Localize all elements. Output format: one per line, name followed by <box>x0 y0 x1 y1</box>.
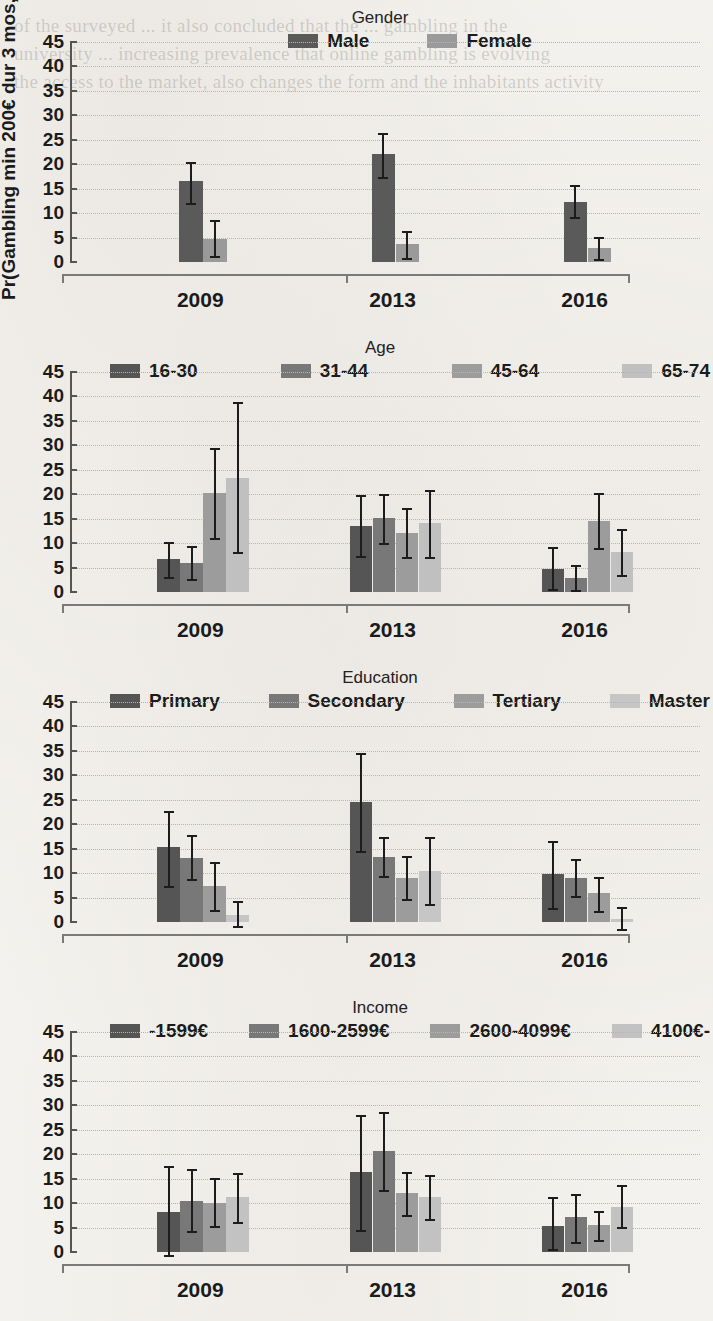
y-axis-tick-label: 40 <box>24 386 64 405</box>
x-axis-label: 2016 <box>561 1278 608 1302</box>
error-bar-cap-lower <box>594 548 604 550</box>
y-axis-tick-label: 0 <box>24 1242 64 1261</box>
gridline <box>72 1032 700 1033</box>
error-bar <box>237 1173 239 1222</box>
gridline <box>72 751 700 752</box>
error-bar <box>214 862 216 910</box>
gridline <box>72 1056 700 1057</box>
error-bar-cap-lower <box>164 577 174 579</box>
chart-panel-education: 200920132016EducationPrimarySecondaryTer… <box>0 660 713 990</box>
y-axis-tick-label: 15 <box>24 1169 64 1188</box>
error-bar-cap-upper <box>425 490 435 492</box>
error-bar <box>621 1185 623 1228</box>
error-bar-cap-lower <box>233 552 243 554</box>
axes-area: 051015202530354045 <box>70 1026 690 1256</box>
y-axis-tick <box>70 1178 77 1180</box>
x-axis-bracket-tick <box>628 604 630 613</box>
error-bar-cap-upper <box>164 1166 174 1168</box>
y-axis-tick <box>70 750 77 752</box>
y-axis-tick-label: 20 <box>24 814 64 833</box>
chart-panel-gender: 200920132016GenderMaleFemale051015202530… <box>0 0 713 330</box>
error-bar-cap-lower <box>210 1226 220 1228</box>
error-bar <box>575 1194 577 1242</box>
error-bar <box>191 835 193 879</box>
x-axis-bracket-tick <box>346 934 348 943</box>
error-bar-cap-lower <box>548 908 558 910</box>
gridline <box>72 91 700 92</box>
error-bar-cap-upper <box>379 494 389 496</box>
y-axis-tick <box>70 1227 77 1229</box>
y-axis-tick-label: 20 <box>24 154 64 173</box>
chart-panel-age: 200920132016Age16-3031-4445-6465-7405101… <box>0 330 713 660</box>
error-bar <box>598 237 600 259</box>
y-axis-tick <box>70 725 77 727</box>
error-bar-cap-upper <box>356 1115 366 1117</box>
y-axis-tick <box>70 1129 77 1131</box>
x-axis-bracket <box>62 1264 630 1274</box>
error-bar-cap-lower <box>210 256 220 258</box>
error-bar <box>237 901 239 926</box>
y-axis-tick <box>70 897 77 899</box>
error-bar <box>575 859 577 896</box>
error-bar-cap-upper <box>402 508 412 510</box>
error-bar <box>406 231 408 258</box>
error-bar <box>598 493 600 548</box>
y-axis-tick <box>70 41 77 43</box>
error-bar-cap-lower <box>425 557 435 559</box>
y-axis-tick-label: 5 <box>24 888 64 907</box>
error-bar-cap-upper <box>548 841 558 843</box>
gridline <box>72 66 700 67</box>
error-bar-cap-lower <box>356 1230 366 1232</box>
gridline <box>72 396 700 397</box>
y-axis-tick <box>70 921 77 923</box>
x-axis-bracket <box>62 274 630 284</box>
error-bar-cap-lower <box>594 911 604 913</box>
plot-area: GenderMaleFemale051015202530354045 <box>70 36 690 266</box>
y-axis-tick-label: 30 <box>24 765 64 784</box>
error-bar-cap-upper <box>425 1175 435 1177</box>
gridline <box>72 775 700 776</box>
x-axis-bracket-tick <box>62 1264 64 1273</box>
error-bar-cap-lower <box>571 1242 581 1244</box>
error-bar <box>621 907 623 929</box>
plot-area: EducationPrimarySecondaryTertiaryMaster0… <box>70 696 690 926</box>
error-bar-cap-lower <box>425 1219 435 1221</box>
y-axis-tick-label: 35 <box>24 411 64 430</box>
error-bar-cap-upper <box>164 542 174 544</box>
x-axis-bracket-tick <box>346 1264 348 1273</box>
error-bar <box>382 133 384 177</box>
gridline <box>72 115 700 116</box>
x-axis-label: 2016 <box>561 288 608 312</box>
error-bar <box>621 529 623 575</box>
error-bar <box>214 220 216 256</box>
error-bar <box>360 495 362 556</box>
error-bar <box>406 508 408 556</box>
gridline <box>72 372 700 373</box>
error-bar <box>429 837 431 904</box>
error-bar <box>429 490 431 556</box>
error-bar <box>168 1166 170 1255</box>
error-bar-cap-lower <box>402 557 412 559</box>
y-axis-tick <box>70 395 77 397</box>
y-axis-tick <box>70 1104 77 1106</box>
y-axis-tick-label: 10 <box>24 203 64 222</box>
y-axis-tick-label: 10 <box>24 533 64 552</box>
gridline <box>72 1081 700 1082</box>
error-bar-cap-lower <box>186 203 196 205</box>
error-bar <box>383 837 385 875</box>
error-bar <box>574 185 576 216</box>
error-bar-cap-lower <box>571 896 581 898</box>
y-axis-tick-label: 5 <box>24 1218 64 1237</box>
y-axis-tick <box>70 444 77 446</box>
error-bar-cap-upper <box>548 547 558 549</box>
error-bar <box>190 162 192 203</box>
y-axis-tick-label: 30 <box>24 1095 64 1114</box>
x-axis-bracket-tick <box>628 274 630 283</box>
x-axis-bracket-tick <box>346 274 348 283</box>
error-bar-cap-lower <box>594 259 604 261</box>
error-bar <box>383 1112 385 1190</box>
x-axis-bracket-tick <box>628 934 630 943</box>
axes-area: 051015202530354045 <box>70 696 690 926</box>
y-axis-tick-label: 45 <box>24 692 64 711</box>
error-bar-cap-lower <box>164 886 174 888</box>
